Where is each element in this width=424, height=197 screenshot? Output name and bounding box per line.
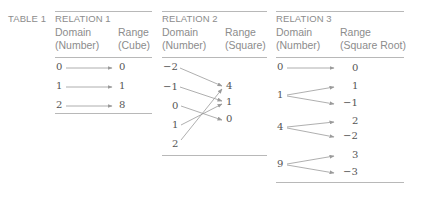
arrow-icon xyxy=(181,106,222,120)
arrow-icon xyxy=(181,89,222,140)
arrow-icon xyxy=(287,165,334,173)
arrow-icon xyxy=(287,87,334,95)
arrow-icon xyxy=(180,68,222,86)
arrow-icon xyxy=(180,87,222,101)
arrow-icon xyxy=(287,96,334,104)
arrow-icon xyxy=(287,128,334,137)
arrow-icon xyxy=(287,122,334,127)
arrow-icon xyxy=(287,156,334,164)
mapping-arrows xyxy=(0,0,424,197)
